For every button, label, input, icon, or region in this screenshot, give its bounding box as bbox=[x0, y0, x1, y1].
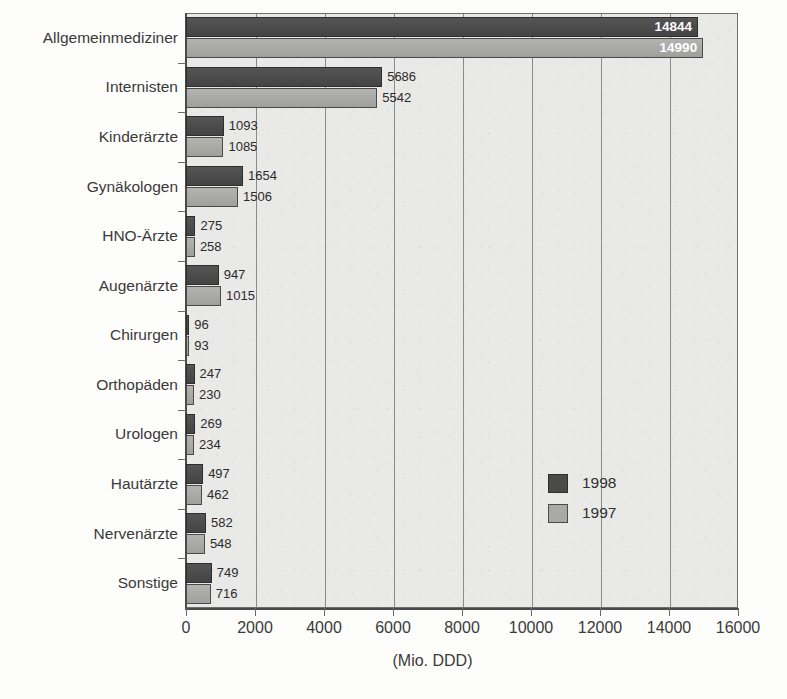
bar-1997-internisten bbox=[186, 88, 377, 108]
category-label-hno-rzte: HNO-Ärzte bbox=[2, 228, 178, 244]
bar-1998-internisten bbox=[186, 67, 382, 87]
x-axis-title: (Mio. DDD) bbox=[0, 652, 787, 670]
bar-1997-gyn-kologen bbox=[186, 187, 238, 207]
category-label-kinder-rzte: Kinderärzte bbox=[2, 129, 178, 145]
bar-1998-augen-rzte bbox=[186, 265, 219, 285]
bar-1997-allgemeinmediziner bbox=[186, 38, 703, 58]
bar-1998-gyn-kologen bbox=[186, 166, 243, 186]
bar-value-1997-sonstige: 716 bbox=[216, 587, 238, 600]
bar-1998-kinder-rzte bbox=[186, 116, 224, 136]
bar-1998-sonstige bbox=[186, 563, 212, 583]
category-label-urologen: Urologen bbox=[2, 426, 178, 442]
bar-1997-kinder-rzte bbox=[186, 137, 223, 157]
x-axis-tick-label: 2000 bbox=[237, 620, 273, 636]
bar-value-1997-nerven-rzte: 548 bbox=[210, 537, 232, 550]
y-axis-tick bbox=[178, 509, 186, 510]
legend-item-1997: 1997 bbox=[548, 498, 616, 528]
category-label-nerven-rzte: Nervenärzte bbox=[2, 526, 178, 542]
y-axis-tick bbox=[178, 311, 186, 312]
bar-1997-hno-rzte bbox=[186, 237, 195, 257]
bar-value-1998-allgemeinmediziner: 14844 bbox=[642, 20, 692, 34]
x-axis-tick-label: 0 bbox=[182, 620, 191, 636]
category-label-sonstige: Sonstige bbox=[2, 575, 178, 591]
legend-item-1998: 1998 bbox=[548, 468, 616, 498]
category-label-internisten: Internisten bbox=[2, 79, 178, 95]
bar-value-1997-orthop-den: 230 bbox=[199, 388, 221, 401]
bar-value-1998-augen-rzte: 947 bbox=[224, 268, 246, 281]
bar-value-1997-haut-rzte: 462 bbox=[207, 488, 229, 501]
bar-1998-nerven-rzte bbox=[186, 513, 206, 533]
x-axis-tick bbox=[531, 608, 532, 616]
y-axis-tick bbox=[178, 162, 186, 163]
bar-1997-chirurgen bbox=[186, 336, 189, 356]
bar-1997-nerven-rzte bbox=[186, 534, 205, 554]
bar-value-1998-gyn-kologen: 1654 bbox=[248, 169, 277, 182]
bar-value-1998-nerven-rzte: 582 bbox=[211, 516, 233, 529]
bar-value-1997-gyn-kologen: 1506 bbox=[243, 190, 272, 203]
bar-value-1997-chirurgen: 93 bbox=[194, 339, 208, 352]
y-axis-tick bbox=[178, 261, 186, 262]
y-axis-tick bbox=[178, 112, 186, 113]
x-axis-tick bbox=[324, 608, 325, 616]
x-axis-tick bbox=[462, 608, 463, 616]
x-axis-tick bbox=[738, 608, 739, 616]
bar-value-1998-urologen: 269 bbox=[200, 417, 222, 430]
category-label-augen-rzte: Augenärzte bbox=[2, 278, 178, 294]
y-axis-tick bbox=[178, 459, 186, 460]
bar-1998-allgemeinmediziner bbox=[186, 17, 698, 37]
bar-value-1997-augen-rzte: 1015 bbox=[226, 289, 255, 302]
x-axis-tick bbox=[393, 608, 394, 616]
category-label-haut-rzte: Hautärzte bbox=[2, 476, 178, 492]
bar-1997-augen-rzte bbox=[186, 286, 221, 306]
y-axis-tick bbox=[178, 63, 186, 64]
legend-swatch-1998 bbox=[548, 474, 568, 493]
bar-value-1998-internisten: 5686 bbox=[387, 70, 416, 83]
x-axis-tick-label: 16000 bbox=[716, 620, 761, 636]
bar-1998-chirurgen bbox=[186, 315, 189, 335]
x-axis-tick-label: 14000 bbox=[647, 620, 692, 636]
x-axis-tick-label: 10000 bbox=[509, 620, 554, 636]
category-label-gyn-kologen: Gynäkologen bbox=[2, 179, 178, 195]
bar-value-1997-kinder-rzte: 1085 bbox=[228, 140, 257, 153]
bar-value-1997-allgemeinmediziner: 14990 bbox=[647, 41, 697, 55]
bar-1998-orthop-den bbox=[186, 364, 195, 384]
gridline bbox=[670, 14, 671, 607]
bar-value-1998-hno-rzte: 275 bbox=[200, 219, 222, 232]
x-axis-tick-label: 8000 bbox=[444, 620, 480, 636]
bar-value-1998-haut-rzte: 497 bbox=[208, 467, 230, 480]
bar-1997-sonstige bbox=[186, 584, 211, 604]
y-axis-tick bbox=[178, 410, 186, 411]
bar-1997-haut-rzte bbox=[186, 485, 202, 505]
legend: 1998 1997 bbox=[548, 468, 616, 528]
x-axis-tick bbox=[669, 608, 670, 616]
x-axis-tick bbox=[600, 608, 601, 616]
category-label-allgemeinmediziner: Allgemeinmediziner bbox=[2, 30, 178, 46]
bar-value-1997-hno-rzte: 258 bbox=[200, 240, 222, 253]
bar-1997-urologen bbox=[186, 435, 194, 455]
bar-value-1997-internisten: 5542 bbox=[382, 91, 411, 104]
bar-value-1998-kinder-rzte: 1093 bbox=[229, 119, 258, 132]
category-label-chirurgen: Chirurgen bbox=[2, 327, 178, 343]
x-axis-tick-label: 6000 bbox=[375, 620, 411, 636]
y-axis-tick bbox=[178, 360, 186, 361]
bar-1998-haut-rzte bbox=[186, 464, 203, 484]
x-axis-tick bbox=[186, 608, 187, 616]
y-axis-tick bbox=[178, 558, 186, 559]
bar-chart: Allgemeinmediziner1484414990Internisten5… bbox=[0, 0, 787, 699]
bar-1997-orthop-den bbox=[186, 385, 194, 405]
x-axis-title-text: (Mio. DDD) bbox=[393, 652, 473, 670]
bar-value-1998-chirurgen: 96 bbox=[194, 318, 208, 331]
legend-label-1997: 1997 bbox=[582, 505, 616, 521]
category-label-orthop-den: Orthopäden bbox=[2, 377, 178, 393]
bar-value-1997-urologen: 234 bbox=[199, 438, 221, 451]
bar-1998-urologen bbox=[186, 414, 195, 434]
y-axis-tick bbox=[178, 211, 186, 212]
x-axis-tick-label: 12000 bbox=[578, 620, 623, 636]
bar-1998-hno-rzte bbox=[186, 216, 195, 236]
bar-value-1998-sonstige: 749 bbox=[217, 566, 239, 579]
gridline bbox=[463, 14, 464, 607]
bar-value-1998-orthop-den: 247 bbox=[200, 367, 222, 380]
legend-label-1998: 1998 bbox=[582, 475, 616, 491]
x-axis-tick-label: 4000 bbox=[306, 620, 342, 636]
gridline bbox=[532, 14, 533, 607]
